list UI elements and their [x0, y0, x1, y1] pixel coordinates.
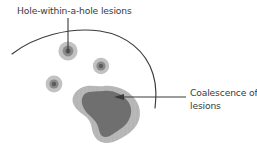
label-coalescence-line-1: Coalescence of	[190, 87, 257, 98]
label-coalescence-of-lesions: Coalescence oflesions	[190, 86, 257, 112]
coalesced-lesion-blob	[73, 84, 140, 146]
radiograph-illustration-figure: Hole-within-a-hole lesions Coalescence o…	[0, 0, 257, 151]
label-hole-within-a-hole-lesions: Hole-within-a-hole lesions	[17, 5, 132, 17]
lesion-right	[93, 58, 109, 74]
label-coalescence-line-2: lesions	[190, 100, 221, 111]
lesion-lower-left	[46, 76, 63, 93]
figure-canvas	[0, 0, 257, 151]
